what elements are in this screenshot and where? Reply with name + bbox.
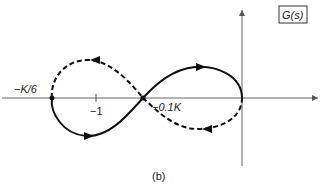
point-left-intercept xyxy=(50,96,55,101)
figure-caption: (b) xyxy=(152,170,165,182)
point-crossing xyxy=(141,96,146,101)
transfer-function-label: G(s) xyxy=(282,9,304,21)
label-minus-one: −1 xyxy=(90,105,103,117)
nyquist-diagram: −K/6 −1 −0.1K G(s) (b) xyxy=(0,0,323,185)
arrow-icon-dashed-upper xyxy=(90,56,100,64)
solid-curve-right-upper xyxy=(143,67,242,98)
arrow-icon-solid-upper xyxy=(196,63,206,71)
solid-curve-left-lower xyxy=(52,98,143,136)
label-left-intercept: −K/6 xyxy=(14,83,38,95)
arrow-icon-dashed-lower xyxy=(202,125,212,133)
dashed-curve-left-upper xyxy=(52,60,143,98)
arrow-icon-solid-lower xyxy=(84,132,94,140)
label-crossing: −0.1K xyxy=(152,101,182,113)
